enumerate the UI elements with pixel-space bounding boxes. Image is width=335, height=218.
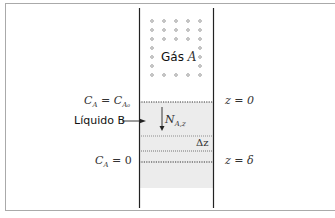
equals: = bbox=[97, 94, 113, 107]
liquid-label: Líquido B bbox=[74, 114, 125, 127]
right-label-zdelta: z = δ bbox=[225, 154, 254, 167]
left-label-top: CA = CA₀ bbox=[84, 94, 130, 109]
zero-value: 0 bbox=[125, 154, 132, 167]
gas-label-text: Gás bbox=[161, 50, 184, 64]
gas-label: Gás A bbox=[161, 50, 196, 64]
equals: = bbox=[108, 154, 124, 167]
cA0-symbol: C bbox=[114, 94, 122, 107]
right-label-z0: z = 0 bbox=[225, 94, 254, 107]
flux-label: NA,z bbox=[165, 113, 186, 128]
cA0-sub: A₀ bbox=[122, 101, 130, 109]
gas-molecules bbox=[151, 20, 202, 77]
delta-z-label: Δz bbox=[196, 137, 209, 148]
flux-symbol: N bbox=[165, 113, 175, 126]
gas-label-var: A bbox=[188, 50, 197, 64]
flux-sub: A,z bbox=[175, 120, 186, 128]
left-label-bottom: CA = 0 bbox=[95, 154, 132, 169]
